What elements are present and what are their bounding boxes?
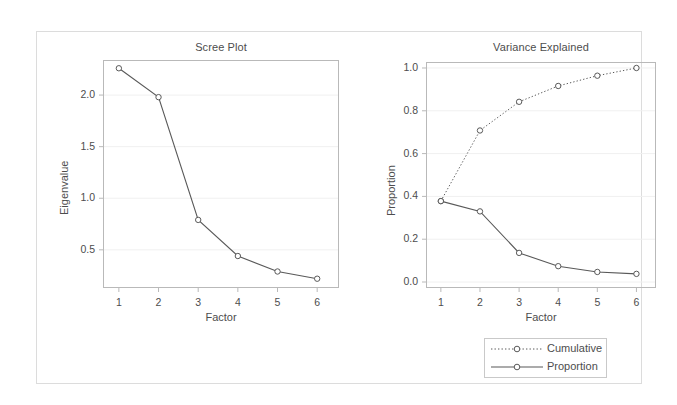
variance-explained-y-tick-label: 0.0 — [382, 275, 418, 287]
legend-item-cumulative[interactable]: Cumulative — [485, 340, 608, 358]
legend-item-proportion[interactable]: Proportion — [485, 358, 608, 376]
variance-explained-y-tick-label: 1.0 — [382, 61, 418, 73]
legend-label-cumulative: Cumulative — [547, 342, 602, 354]
variance-explained-y-tick-label: 0.4 — [382, 189, 418, 201]
scree-plot-y-tick-label: 0.5 — [59, 243, 95, 255]
scree-plot-y-tick-label: 2.0 — [59, 88, 95, 100]
legend: Cumulative Proportion — [484, 338, 607, 378]
scree-plot-x-tick-label: 5 — [263, 296, 293, 308]
scree-plot-x-tick-label: 4 — [223, 296, 253, 308]
variance-explained-y-tick-label: 0.6 — [382, 147, 418, 159]
scree-plot-x-tick-label: 1 — [104, 296, 134, 308]
variance-explained-x-tick-label: 4 — [543, 296, 573, 308]
variance-explained-x-tick-label: 2 — [465, 296, 495, 308]
variance-explained-x-tick-label: 6 — [621, 296, 651, 308]
scree-plot-y-tick-label: 1.0 — [59, 191, 95, 203]
legend-swatch-cumulative — [490, 340, 544, 358]
legend-label-proportion: Proportion — [547, 360, 598, 372]
legend-swatch-proportion — [490, 358, 544, 376]
scree-plot-x-tick-label: 6 — [302, 296, 332, 308]
scree-plot-x-tick-label: 3 — [183, 296, 213, 308]
scree-plot-y-tick-label: 1.5 — [59, 140, 95, 152]
variance-explained-x-tick-label: 3 — [504, 296, 534, 308]
variance-explained-y-tick-label: 0.2 — [382, 232, 418, 244]
variance-explained-y-tick-label: 0.8 — [382, 104, 418, 116]
variance-explained-x-tick-label: 1 — [426, 296, 456, 308]
variance-explained-x-tick-label: 5 — [582, 296, 612, 308]
scree-plot-x-tick-label: 2 — [144, 296, 174, 308]
figure-root: Scree Plot Eigenvalue Factor Variance Ex… — [0, 0, 677, 405]
